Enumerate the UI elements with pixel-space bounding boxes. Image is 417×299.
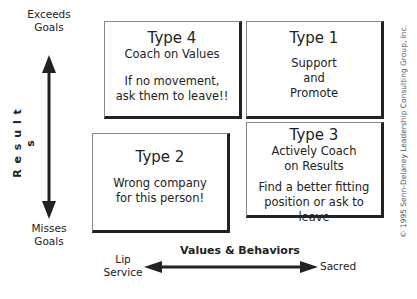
y-axis-title: R e s u l t s [11, 103, 37, 183]
x-axis-left-label: Lip Service [100, 253, 146, 279]
type2-action-line-2: for this person! [93, 191, 227, 206]
type2-title: Type 2 [93, 148, 227, 166]
x-axis-right-label: Sacred [320, 260, 370, 273]
quadrant-type-2: Type 2 Wrong company for this person! [92, 133, 230, 233]
x-axis-title: Values & Behaviors [170, 244, 310, 257]
y-axis-top-label: Exceeds Goals [18, 8, 80, 34]
type4-action-line-2: ask them to leave!! [105, 89, 239, 104]
copyright-notice: © 1995 Senn-Delaney Leadership Consultin… [399, 25, 408, 238]
y-top-line-2: Goals [18, 21, 80, 34]
quadrant-type-1: Type 1 Support and Promote [246, 21, 384, 119]
type3-action-line-2: position or ask to leave [247, 195, 381, 225]
x-left-line-2: Service [100, 266, 146, 279]
vertical-double-arrow-icon [38, 55, 60, 219]
x-left-line-1: Lip [100, 253, 146, 266]
type4-action-line-1: If no movement, [105, 74, 239, 89]
horizontal-double-arrow-icon [144, 259, 318, 275]
y-axis-bottom-label: Misses Goals [18, 222, 80, 248]
type4-subtitle: Coach on Values [105, 47, 239, 62]
type1-title: Type 1 [247, 29, 381, 47]
type3-subtitle-line-2: on Results [247, 159, 381, 174]
y-bottom-line-2: Goals [18, 235, 80, 248]
type1-action-line-1: Support [247, 56, 381, 71]
type1-action-line-2: and [247, 71, 381, 86]
y-top-line-1: Exceeds [18, 8, 80, 21]
y-bottom-line-1: Misses [18, 222, 80, 235]
quadrant-type-4: Type 4 Coach on Values If no movement, a… [104, 21, 242, 119]
type4-title: Type 4 [105, 29, 239, 47]
quadrant-type-3: Type 3 Actively Coach on Results Find a … [246, 122, 384, 218]
type1-action-line-3: Promote [247, 86, 381, 101]
type3-title: Type 3 [247, 126, 381, 144]
type3-action-line-1: Find a better fitting [247, 180, 381, 195]
type2-action-line-1: Wrong company [93, 176, 227, 191]
type3-subtitle-line-1: Actively Coach [247, 144, 381, 159]
